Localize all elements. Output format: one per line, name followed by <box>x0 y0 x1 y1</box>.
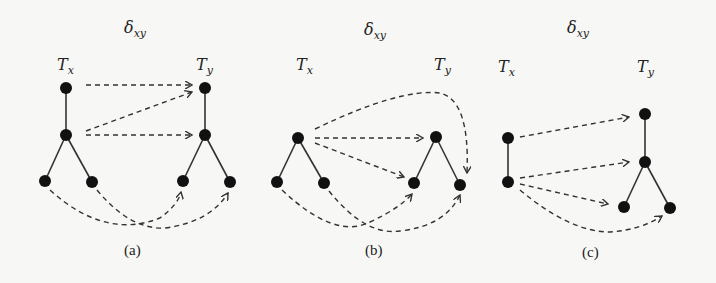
mapping-label-b: δxy <box>364 20 387 42</box>
mapping-label-c: δxy <box>567 18 590 40</box>
mapping-label-a: δxy <box>124 18 147 40</box>
tree-y-label-b: Ty <box>434 55 452 77</box>
node <box>318 177 330 189</box>
node <box>199 129 211 141</box>
tree-y-b <box>408 131 466 191</box>
node <box>60 82 72 94</box>
panel-c: δxy Tx Ty (c) <box>498 18 676 261</box>
node <box>177 175 189 187</box>
tree-y-label-a: Ty <box>196 55 214 77</box>
mappings-a <box>50 85 228 228</box>
tree-x-label-a: Tx <box>57 55 75 77</box>
node <box>60 129 72 141</box>
node <box>639 156 651 168</box>
tree-mapping-figure: δxy Tx Ty (a) <box>0 0 716 283</box>
tree-x-label-c: Tx <box>498 57 516 79</box>
node <box>502 176 514 188</box>
node <box>618 201 630 213</box>
node <box>224 176 236 188</box>
node <box>39 175 51 187</box>
tree-y-c <box>618 108 676 214</box>
node <box>639 108 651 120</box>
panel-a: δxy Tx Ty (a) <box>39 18 236 259</box>
tree-x-b <box>271 132 330 189</box>
mappings-b <box>282 92 467 231</box>
tree-x-label-b: Tx <box>296 55 314 77</box>
node <box>430 131 442 143</box>
node <box>664 202 676 214</box>
node <box>454 179 466 191</box>
tree-x-c <box>502 132 514 188</box>
node <box>86 176 98 188</box>
node <box>408 177 420 189</box>
caption-b: (b) <box>365 242 383 259</box>
panel-b: δxy Tx Ty (b) <box>271 20 467 259</box>
node <box>502 132 514 144</box>
caption-c: (c) <box>582 244 599 261</box>
node <box>292 132 304 144</box>
node <box>271 176 283 188</box>
mappings-c <box>520 117 662 232</box>
node <box>199 82 211 94</box>
tree-y-label-c: Ty <box>637 57 655 79</box>
caption-a: (a) <box>124 242 141 259</box>
